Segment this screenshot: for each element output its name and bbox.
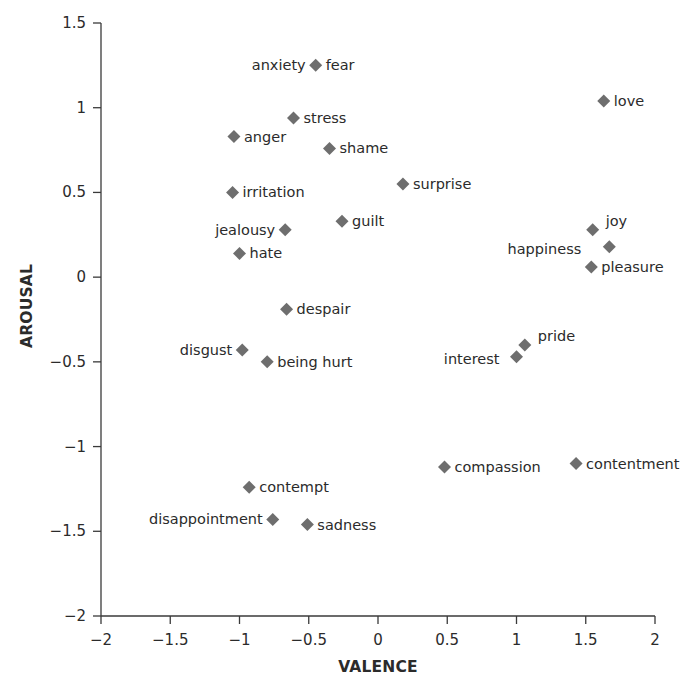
point-label: pleasure bbox=[601, 259, 663, 275]
x-tick-label: −2 bbox=[90, 631, 112, 649]
data-points: fearanxietylovestressangershamesurprisei… bbox=[149, 57, 680, 532]
diamond-marker-icon bbox=[335, 215, 348, 228]
x-tick-label: 1.5 bbox=[574, 631, 598, 649]
point-label: despair bbox=[297, 301, 351, 317]
point-label: irritation bbox=[243, 184, 305, 200]
diamond-marker-icon bbox=[301, 518, 314, 531]
diamond-marker-icon bbox=[243, 481, 256, 494]
y-tick-label: −1.5 bbox=[50, 522, 86, 540]
y-tick-label: −2 bbox=[64, 607, 86, 625]
diamond-marker-icon bbox=[266, 513, 279, 526]
point-label: anxiety bbox=[252, 57, 306, 73]
diamond-marker-icon bbox=[597, 94, 610, 107]
point-label: fear bbox=[326, 57, 355, 73]
diamond-marker-icon bbox=[227, 130, 240, 143]
point-label: pride bbox=[538, 328, 575, 344]
diamond-marker-icon bbox=[279, 223, 292, 236]
y-tick-label: 0 bbox=[76, 268, 86, 286]
diamond-marker-icon bbox=[236, 343, 249, 356]
diamond-marker-icon bbox=[585, 260, 598, 273]
point-label: contempt bbox=[259, 479, 329, 495]
valence-arousal-scatter-chart: 1.510.50−0.5−1−1.5−2 −2−1.5−1−0.500.511.… bbox=[0, 0, 700, 700]
y-tick-label: −1 bbox=[64, 438, 86, 456]
point-label: happiness bbox=[508, 241, 582, 257]
diamond-marker-icon bbox=[287, 111, 300, 124]
diamond-marker-icon bbox=[510, 350, 523, 363]
diamond-marker-icon bbox=[309, 59, 322, 72]
x-tick-label: 0.5 bbox=[435, 631, 459, 649]
diamond-marker-icon bbox=[438, 460, 451, 473]
x-axis-title: VALENCE bbox=[338, 658, 418, 676]
point-label: joy bbox=[605, 213, 628, 229]
point-label: shame bbox=[340, 140, 389, 156]
y-axis-title: AROUSAL bbox=[18, 264, 36, 348]
point-label: compassion bbox=[454, 459, 540, 475]
x-tick-label: −0.5 bbox=[291, 631, 327, 649]
point-label: surprise bbox=[413, 176, 471, 192]
point-label: disappointment bbox=[149, 511, 263, 527]
y-tick-label: 1.5 bbox=[62, 14, 86, 32]
x-axis-ticks: −2−1.5−1−0.500.511.52 bbox=[90, 616, 660, 649]
y-axis-ticks: 1.510.50−0.5−1−1.5−2 bbox=[50, 14, 101, 625]
diamond-marker-icon bbox=[396, 177, 409, 190]
x-tick-label: −1 bbox=[228, 631, 250, 649]
diamond-marker-icon bbox=[586, 223, 599, 236]
y-tick-label: 0.5 bbox=[62, 183, 86, 201]
diamond-marker-icon bbox=[280, 303, 293, 316]
point-label: anger bbox=[244, 129, 286, 145]
diamond-marker-icon bbox=[261, 355, 274, 368]
diamond-marker-icon bbox=[233, 247, 246, 260]
diamond-marker-icon bbox=[226, 186, 239, 199]
y-tick-label: −0.5 bbox=[50, 353, 86, 371]
x-tick-label: 0 bbox=[373, 631, 383, 649]
point-label: stress bbox=[304, 110, 347, 126]
point-label: guilt bbox=[352, 213, 384, 229]
point-label: interest bbox=[444, 351, 500, 367]
x-tick-label: 1 bbox=[512, 631, 522, 649]
x-tick-label: 2 bbox=[650, 631, 660, 649]
y-tick-label: 1 bbox=[76, 99, 86, 117]
point-label: disgust bbox=[180, 342, 233, 358]
point-label: hate bbox=[250, 245, 283, 261]
diamond-marker-icon bbox=[323, 142, 336, 155]
point-label: contentment bbox=[586, 456, 680, 472]
diamond-marker-icon bbox=[603, 240, 616, 253]
diamond-marker-icon bbox=[570, 457, 583, 470]
diamond-marker-icon bbox=[518, 338, 531, 351]
point-label: love bbox=[614, 93, 644, 109]
point-label: sadness bbox=[317, 517, 376, 533]
point-label: being hurt bbox=[277, 354, 352, 370]
x-tick-label: −1.5 bbox=[152, 631, 188, 649]
point-label: jealousy bbox=[214, 222, 275, 238]
